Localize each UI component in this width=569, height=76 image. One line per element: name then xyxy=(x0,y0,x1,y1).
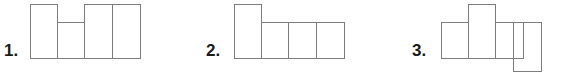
figure-2-cell-1 xyxy=(234,4,262,59)
figure-3-cell-2 xyxy=(468,4,496,59)
figure-3-cell-1 xyxy=(441,22,469,59)
figure-2-cell-4 xyxy=(316,22,345,59)
figure-2-cell-2 xyxy=(261,22,289,59)
figure-1-cell-3 xyxy=(84,4,113,59)
figure-3-cell-4 xyxy=(513,22,542,72)
figure-1-cell-2 xyxy=(57,22,85,59)
problem-1-label: 1. xyxy=(4,42,18,59)
figure-1-cell-4 xyxy=(112,4,141,59)
figure-2-cell-3 xyxy=(288,22,317,59)
problem-2-label: 2. xyxy=(206,42,220,59)
figure-1-cell-1 xyxy=(30,4,58,59)
problem-3-label: 3. xyxy=(412,42,426,59)
worksheet-figures-row: 1. 2. 3. xyxy=(0,0,569,76)
